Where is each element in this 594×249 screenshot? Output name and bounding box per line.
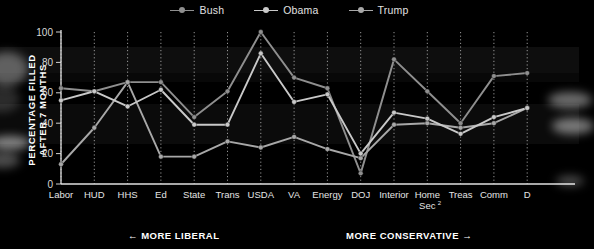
- svg-text:2: 2: [438, 200, 442, 206]
- svg-text:DOJ: DOJ: [351, 189, 370, 200]
- svg-text:80: 80: [42, 57, 54, 68]
- svg-text:State: State: [183, 189, 205, 200]
- svg-text:100: 100: [36, 27, 53, 38]
- gridlines: [61, 32, 527, 184]
- chart-series: [59, 30, 530, 176]
- svg-text:Labor: Labor: [49, 189, 73, 200]
- svg-text:Home: Home: [415, 189, 440, 200]
- svg-text:D: D: [524, 189, 531, 200]
- annotation-more-liberal: ← MORE LIBERAL: [128, 230, 219, 241]
- svg-text:USDA: USDA: [248, 189, 275, 200]
- svg-text:20: 20: [42, 148, 54, 159]
- svg-text:HUD: HUD: [84, 189, 105, 200]
- svg-text:Ed: Ed: [155, 189, 167, 200]
- svg-text:Energy: Energy: [312, 189, 342, 200]
- svg-text:VA: VA: [288, 189, 301, 200]
- svg-text:0: 0: [47, 179, 53, 190]
- svg-text:60: 60: [42, 87, 54, 98]
- x-axis-category-labels: LaborHUDHHSEdStateTransUSDAVAEnergyDOJIn…: [49, 189, 531, 211]
- y-axis-ticks: 020406080100: [36, 27, 61, 190]
- svg-text:Trans: Trans: [216, 189, 240, 200]
- svg-text:40: 40: [42, 118, 54, 129]
- svg-text:Interior: Interior: [379, 189, 409, 200]
- svg-text:Sec: Sec: [419, 200, 436, 211]
- annotation-more-conservative: MORE CONSERVATIVE →: [346, 230, 472, 241]
- svg-text:HHS: HHS: [118, 189, 138, 200]
- svg-text:Comm: Comm: [480, 189, 508, 200]
- svg-text:Treas: Treas: [449, 189, 473, 200]
